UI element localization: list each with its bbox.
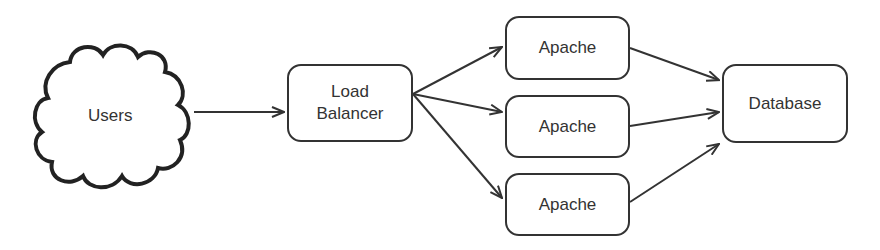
apache-1-label: Apache xyxy=(539,37,597,59)
apache-node-3: Apache xyxy=(505,173,630,236)
apache-node-1: Apache xyxy=(505,16,630,80)
users-label: Users xyxy=(88,106,132,126)
load-balancer-label-line2: Balancer xyxy=(316,103,383,125)
load-balancer-node: Load Balancer xyxy=(287,64,413,142)
edge-apache-1-to-db xyxy=(630,48,719,80)
edges xyxy=(194,47,719,202)
edge-apache-3-to-db xyxy=(630,144,719,202)
database-label: Database xyxy=(749,93,822,115)
edge-apache-2-to-db xyxy=(630,112,719,126)
database-node: Database xyxy=(722,64,848,143)
apache-3-label: Apache xyxy=(539,194,597,216)
apache-2-label: Apache xyxy=(539,116,597,138)
edge-lb-to-apache-1 xyxy=(413,47,502,94)
load-balancer-label-line1: Load xyxy=(331,81,369,103)
apache-node-2: Apache xyxy=(505,95,630,158)
